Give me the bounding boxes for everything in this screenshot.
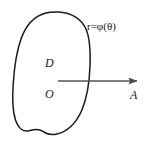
figure-canvas bbox=[0, 0, 149, 144]
point-label-a: A bbox=[130, 89, 137, 101]
polar-region-figure: D O A r=φ(θ) bbox=[0, 0, 149, 144]
region-boundary-curve bbox=[13, 12, 90, 135]
region-label-d: D bbox=[45, 57, 54, 69]
curve-equation-label: r=φ(θ) bbox=[87, 21, 116, 32]
origin-label-o: O bbox=[45, 88, 54, 100]
